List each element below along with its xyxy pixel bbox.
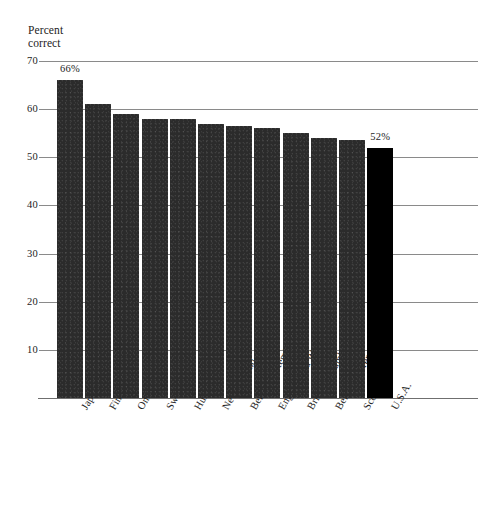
- y-tick-label-30: 30: [12, 248, 38, 259]
- bar: [170, 119, 196, 398]
- bar: [85, 104, 111, 398]
- gridline-70: [46, 61, 478, 62]
- y-tick-mark-40: [39, 205, 46, 206]
- y-tick-label-10: 10: [12, 344, 38, 355]
- bar: [57, 80, 83, 398]
- y-tick-mark-10: [39, 350, 46, 351]
- y-tick-label-70: 70: [12, 55, 38, 66]
- y-tick-label-40: 40: [12, 199, 38, 210]
- bar: [198, 124, 224, 398]
- y-tick-mark-60: [39, 109, 46, 110]
- y-tick-label-20: 20: [12, 296, 38, 307]
- y-tick-mark-30: [39, 254, 46, 255]
- y-tick-label-60: 60: [12, 103, 38, 114]
- y-tick-mark-70: [39, 61, 46, 62]
- bar: [311, 138, 337, 398]
- bar-chart: Percent correct 1020304050607066%JapanFi…: [0, 0, 503, 517]
- bar-value-label: 66%: [49, 63, 91, 74]
- bar: [142, 119, 168, 398]
- bar: [226, 126, 252, 398]
- y-tick-mark-20: [39, 302, 46, 303]
- bar: [254, 128, 280, 398]
- bar: [367, 148, 393, 398]
- y-tick-label-50: 50: [12, 151, 38, 162]
- y-tick-mark-50: [39, 157, 46, 158]
- bar-value-label: 52%: [359, 131, 401, 142]
- bar: [113, 114, 139, 398]
- bar: [339, 140, 365, 398]
- plot-area: 1020304050607066%JapanFinlandOntarioSwed…: [0, 0, 503, 517]
- bar: [283, 133, 309, 398]
